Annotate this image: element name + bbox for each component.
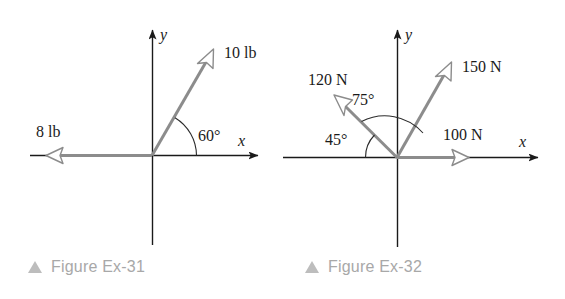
angle-60-arc [175,118,197,156]
angle-45-label: 45° [325,131,347,148]
angle-45-arc [365,135,374,158]
vector-100n-label: 100 N [443,126,483,143]
figures-canvas: y x 8 lb 10 lb 60° y x [0,0,565,299]
y-axis-label: y [158,26,168,44]
vector-150n-shaft [397,75,444,158]
angle-60-label: 60° [198,127,220,144]
figure-caption-ex-31: Figure Ex-31 [28,258,145,276]
vector-120n-shaft [345,106,397,158]
figure-ex-32-graphic: y x 100 N 150 N 120 N 75° [283,26,538,247]
x-axis-label: x [237,132,245,149]
vector-100n [397,150,469,166]
triangle-marker-icon [28,261,42,273]
figure-caption-ex-32: Figure Ex-32 [305,258,422,276]
y-axis-label-2: y [403,26,413,44]
vector-150n-label: 150 N [462,58,502,75]
figure-page: y x 8 lb 10 lb 60° y x [0,0,565,299]
x-axis-label-2: x [518,133,526,150]
figure-ex-31-graphic: y x 8 lb 10 lb 60° [30,26,258,245]
vector-8lb [46,148,152,164]
vector-8lb-label: 8 lb [36,123,60,140]
vector-8lb-arrowhead [46,148,63,164]
triangle-marker-icon [305,261,319,273]
figure-caption-ex-31-text: Figure Ex-31 [51,258,145,276]
vector-150n [397,62,452,158]
vector-120n-label: 120 N [308,71,348,88]
vector-10lb-label: 10 lb [224,44,256,61]
vector-100n-arrowhead [452,150,469,166]
angle-75-label: 75° [352,91,374,108]
figure-caption-ex-32-text: Figure Ex-32 [328,258,422,276]
